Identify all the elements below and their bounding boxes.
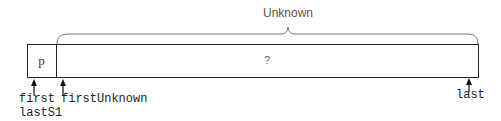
- pointer-lastS1-label: lastS1: [19, 106, 62, 120]
- array-region-unknown: ?: [56, 44, 479, 78]
- cell-unknown-label: ?: [57, 54, 477, 66]
- pointer-first-label: first: [19, 92, 55, 106]
- unknown-brace: [57, 27, 478, 44]
- pointer-last-label: last: [456, 88, 485, 102]
- cell-p-label: p: [28, 53, 55, 69]
- pointer-firstUnknown-label: firstUnknown: [61, 92, 147, 106]
- unknown-label: Unknown: [258, 6, 318, 20]
- array-cell-p: p: [27, 44, 57, 78]
